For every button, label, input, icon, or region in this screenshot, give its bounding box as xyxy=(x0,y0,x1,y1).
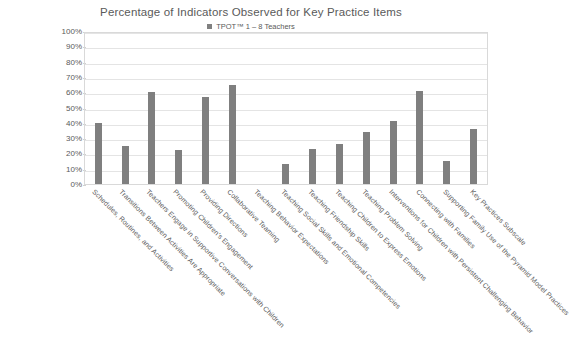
bar[interactable] xyxy=(336,144,343,184)
y-axis: 100%90%80%70%60%50%40%30%20%10%0% xyxy=(48,32,82,185)
y-axis-tick-label: 20% xyxy=(66,150,82,158)
bar-slot xyxy=(85,33,112,184)
bar[interactable] xyxy=(470,129,477,184)
bar[interactable] xyxy=(202,97,209,184)
bar-slot xyxy=(433,33,460,184)
bar[interactable] xyxy=(148,92,155,184)
bar[interactable] xyxy=(122,146,129,184)
x-axis-tick-label: Providing Directions xyxy=(199,188,249,238)
bar-slot xyxy=(112,33,139,184)
bar[interactable] xyxy=(282,164,289,184)
x-axis-tick-label: Supporting Family Use of the Pyramid Mod… xyxy=(442,188,570,317)
bar-slot xyxy=(326,33,353,184)
bar[interactable] xyxy=(443,161,450,184)
bar[interactable] xyxy=(363,132,370,184)
y-axis-tick-label: 50% xyxy=(66,105,82,113)
bar-slot xyxy=(353,33,380,184)
bar-slot xyxy=(246,33,273,184)
bar-slot xyxy=(299,33,326,184)
y-axis-tick-label: 10% xyxy=(66,166,82,174)
y-axis-tick-label: 90% xyxy=(66,43,82,51)
y-axis-tick-label: 60% xyxy=(66,89,82,97)
bar[interactable] xyxy=(390,121,397,184)
bar-slot xyxy=(407,33,434,184)
bar[interactable] xyxy=(175,150,182,184)
legend-color-swatch xyxy=(207,24,212,29)
x-axis: Schedules, Routines, and ActivitiesTrans… xyxy=(84,186,488,358)
y-axis-tick-label: 30% xyxy=(66,135,82,143)
y-axis-tick-label: 0% xyxy=(70,181,82,189)
x-axis-tick-label: Key Practices Subscale xyxy=(469,188,528,247)
bar-slot xyxy=(165,33,192,184)
bar[interactable] xyxy=(229,85,236,184)
bar-slot xyxy=(139,33,166,184)
bar-slot xyxy=(273,33,300,184)
x-axis-tick-label: Collaborative Teaming xyxy=(226,188,281,243)
legend-entry-label: TPOT™ 1 – 8 Teachers xyxy=(216,22,295,31)
bar[interactable] xyxy=(416,91,423,184)
bar[interactable] xyxy=(309,149,316,184)
y-axis-tick-label: 100% xyxy=(62,28,82,36)
bar-slot xyxy=(219,33,246,184)
bar[interactable] xyxy=(95,123,102,184)
bar-slot xyxy=(192,33,219,184)
y-axis-tick-label: 80% xyxy=(66,59,82,67)
y-axis-tick-label: 70% xyxy=(66,74,82,82)
bars-layer xyxy=(85,33,487,184)
bar-slot xyxy=(460,33,487,184)
bar-slot xyxy=(380,33,407,184)
chart-title: Percentage of Indicators Observed for Ke… xyxy=(0,6,502,18)
y-axis-tick-label: 40% xyxy=(66,120,82,128)
plot-area xyxy=(84,32,488,185)
